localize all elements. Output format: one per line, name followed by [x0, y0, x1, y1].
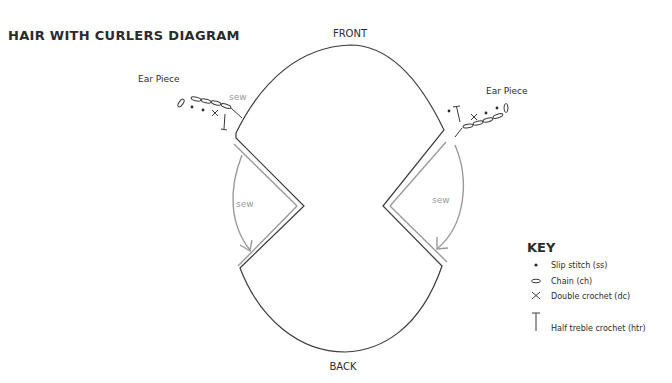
double-crochet-icon [471, 114, 477, 120]
key-title: KEY [527, 240, 556, 255]
right-side-sew-label: sew [432, 195, 450, 205]
slip-stitch-icon [496, 107, 499, 110]
chain-icon [493, 113, 504, 120]
double-crochet-icon [532, 292, 540, 299]
chain-icon [177, 98, 185, 108]
chain-icon [221, 103, 232, 110]
chain-icon [463, 123, 473, 128]
hair-piece-outline [236, 45, 444, 352]
key-item-label: Half treble crochet (htr) [551, 324, 646, 333]
right-ear-piece-label: Ear Piece [486, 86, 528, 96]
chain-icon [201, 98, 212, 104]
right-ear-piece [448, 104, 508, 138]
half-treble-crochet-icon [453, 106, 460, 122]
key-item-label: Chain (ch) [551, 277, 592, 286]
half-treble-crochet-icon [221, 114, 227, 130]
left-seam-top [234, 144, 297, 206]
sew-line [231, 108, 242, 118]
hair-diagram: HAIR WITH CURLERS DIAGRAM FRONT BACK sew… [0, 0, 672, 383]
chain-icon [211, 100, 222, 106]
chain-icon [483, 117, 494, 123]
left-ear-piece-label: Ear Piece [138, 74, 180, 84]
half-treble-crochet-icon [532, 313, 540, 331]
slip-stitch-icon [448, 110, 451, 113]
chain-icon [504, 104, 508, 113]
slip-stitch-icon [191, 106, 194, 109]
right-seam-bottom [390, 206, 447, 262]
key-legend: KEY Slip stitch (ss) Chain (ch) Double c… [527, 240, 646, 333]
key-item-label: Slip stitch (ss) [551, 261, 607, 270]
key-item-label: Double crochet (dc) [551, 292, 630, 301]
slip-stitch-icon [485, 112, 488, 115]
back-label: BACK [329, 361, 357, 372]
front-label: FRONT [333, 28, 368, 39]
chain-icon [532, 279, 541, 283]
diagram-title: HAIR WITH CURLERS DIAGRAM [8, 28, 240, 43]
left-seam-bottom [238, 206, 297, 266]
slip-stitch-icon [534, 263, 537, 266]
chain-icon [473, 120, 484, 126]
double-crochet-icon [212, 110, 218, 116]
slip-stitch-icon [202, 109, 205, 112]
left-side-sew-label: sew [236, 199, 254, 209]
chain-icon [191, 96, 202, 102]
sew-line [455, 128, 462, 137]
left-ear-sew-label: sew [229, 92, 247, 102]
